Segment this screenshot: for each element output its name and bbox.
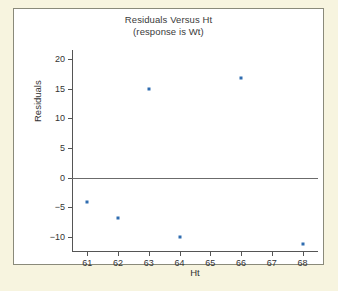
plot-area: 20151050−5−10 6162636465666768	[72, 50, 318, 252]
x-tick-label: 67	[267, 258, 277, 268]
y-tick-label: 5	[60, 143, 65, 153]
y-tick-mark	[68, 207, 72, 208]
y-tick-mark	[68, 178, 72, 179]
x-axis-line	[72, 251, 318, 252]
x-tick-mark	[241, 252, 242, 256]
x-tick-label: 66	[236, 258, 246, 268]
data-point	[301, 243, 304, 246]
data-point	[86, 200, 89, 203]
chart-title-block: Residuals Versus Ht (response is Wt)	[14, 14, 323, 38]
x-tick-mark	[149, 252, 150, 256]
y-tick-mark	[68, 237, 72, 238]
y-tick-label: 0	[60, 173, 65, 183]
data-point	[178, 236, 181, 239]
x-tick-mark	[272, 252, 273, 256]
x-tick-mark	[118, 252, 119, 256]
x-tick-label: 61	[82, 258, 92, 268]
chart-subtitle: (response is Wt)	[14, 26, 323, 38]
x-tick-mark	[180, 252, 181, 256]
y-axis-title: Residuals	[32, 80, 43, 122]
y-tick-mark	[68, 148, 72, 149]
y-tick-mark	[68, 89, 72, 90]
chart-panel: Residuals Versus Ht (response is Wt) Res…	[13, 8, 324, 265]
chart-title: Residuals Versus Ht	[14, 14, 323, 26]
x-tick-label: 68	[298, 258, 308, 268]
zero-reference-line	[72, 178, 318, 179]
x-tick-label: 64	[175, 258, 185, 268]
y-tick-label: −5	[55, 202, 65, 212]
data-point	[147, 87, 150, 90]
x-tick-label: 62	[113, 258, 123, 268]
y-tick-label: −10	[50, 232, 65, 242]
y-tick-label: 10	[55, 113, 65, 123]
y-tick-mark	[68, 118, 72, 119]
x-tick-mark	[303, 252, 304, 256]
y-tick-mark	[68, 59, 72, 60]
data-point	[117, 217, 120, 220]
x-tick-label: 65	[205, 258, 215, 268]
x-tick-mark	[210, 252, 211, 256]
y-tick-label: 15	[55, 84, 65, 94]
x-tick-label: 63	[144, 258, 154, 268]
data-point	[240, 76, 243, 79]
x-axis-title: Ht	[72, 267, 318, 278]
y-tick-label: 20	[55, 54, 65, 64]
y-axis-line	[72, 50, 73, 252]
x-tick-mark	[87, 252, 88, 256]
